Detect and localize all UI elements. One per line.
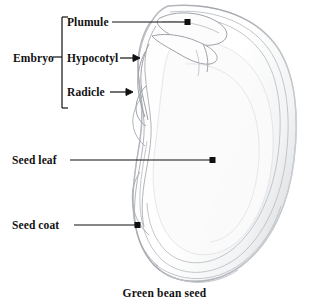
label-radicle: Radicle <box>67 86 105 98</box>
label-seed-coat: Seed coat <box>12 219 59 231</box>
annotation-lines-layer <box>0 0 329 303</box>
label-plumule: Plumule <box>67 16 109 28</box>
label-hypocotyl: Hypocotyl <box>67 52 118 64</box>
label-embryo: Embryo <box>13 52 54 64</box>
seed-diagram-figure: Embryo Plumule Hypocotyl Radicle Seed le… <box>0 0 329 303</box>
hypocotyl-arrow <box>120 55 140 62</box>
seed-leaf-leader <box>70 158 215 163</box>
radicle-arrow <box>110 89 133 96</box>
seed-coat-leader <box>74 223 140 228</box>
plumule-leader <box>112 20 190 25</box>
figure-caption: Green bean seed <box>0 287 329 299</box>
label-seed-leaf: Seed leaf <box>12 154 57 166</box>
